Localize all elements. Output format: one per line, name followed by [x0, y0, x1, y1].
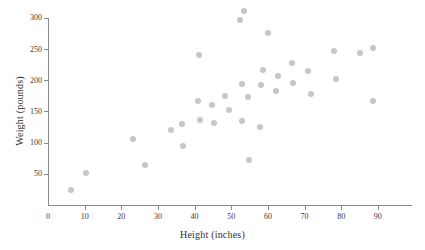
- data-point: [180, 143, 186, 149]
- x-tick-label: 50: [219, 212, 243, 221]
- y-tick-mark: [44, 80, 48, 81]
- y-tick-mark: [44, 49, 48, 50]
- x-tick-mark: [121, 206, 122, 210]
- y-tick-mark: [44, 18, 48, 19]
- x-tick-mark: [158, 206, 159, 210]
- x-tick-label: 60: [256, 212, 280, 221]
- data-point: [226, 107, 232, 113]
- data-point: [130, 136, 136, 142]
- x-tick-label: 30: [146, 212, 170, 221]
- x-tick-label: 90: [366, 212, 390, 221]
- y-tick-mark: [44, 174, 48, 175]
- x-tick-label: 20: [109, 212, 133, 221]
- data-point: [275, 73, 281, 79]
- data-point: [258, 82, 264, 88]
- x-tick-mark: [341, 206, 342, 210]
- data-point: [245, 94, 251, 100]
- x-tick-label: 70: [293, 212, 317, 221]
- data-point: [196, 52, 202, 58]
- data-point: [195, 98, 201, 104]
- x-axis-label: Height (inches): [0, 229, 425, 240]
- x-tick-label: 40: [183, 212, 207, 221]
- scatter-plot-figure: 50100150200250300 0102030405060708090 He…: [0, 0, 425, 250]
- y-tick-mark: [44, 111, 48, 112]
- data-point: [305, 68, 311, 74]
- x-tick-label: 0: [36, 212, 60, 221]
- x-tick-mark: [231, 206, 232, 210]
- data-point: [241, 8, 247, 14]
- data-point: [197, 117, 203, 123]
- data-point: [290, 80, 296, 86]
- y-tick-label: 300: [20, 13, 42, 22]
- x-tick-mark: [268, 206, 269, 210]
- data-point: [222, 93, 228, 99]
- data-point: [289, 60, 295, 66]
- data-point: [68, 187, 74, 193]
- x-axis-line: [48, 205, 412, 206]
- data-point: [239, 118, 245, 124]
- data-point: [257, 124, 263, 130]
- x-tick-mark: [85, 206, 86, 210]
- data-point: [142, 162, 148, 168]
- data-point: [370, 98, 376, 104]
- y-axis-label: Weight (pounds): [14, 76, 25, 146]
- plot-area: 50100150200250300 0102030405060708090: [0, 0, 425, 250]
- data-point: [168, 127, 174, 133]
- data-point: [260, 67, 266, 73]
- x-tick-mark: [378, 206, 379, 210]
- data-point: [239, 81, 245, 87]
- data-point: [179, 121, 185, 127]
- x-tick-mark: [305, 206, 306, 210]
- y-axis-label-wrapper: Weight (pounds): [9, 41, 27, 181]
- data-point: [83, 170, 89, 176]
- data-point: [237, 17, 243, 23]
- x-tick-label: 80: [329, 212, 353, 221]
- data-point: [265, 30, 271, 36]
- data-point: [273, 88, 279, 94]
- data-point: [209, 102, 215, 108]
- x-tick-mark: [195, 206, 196, 210]
- data-point: [246, 157, 252, 163]
- data-point: [357, 50, 363, 56]
- data-point: [211, 120, 217, 126]
- data-point: [333, 76, 339, 82]
- data-point: [331, 48, 337, 54]
- x-tick-label: 10: [73, 212, 97, 221]
- y-tick-mark: [44, 143, 48, 144]
- data-point: [308, 91, 314, 97]
- data-point: [370, 45, 376, 51]
- y-axis-line: [48, 18, 49, 206]
